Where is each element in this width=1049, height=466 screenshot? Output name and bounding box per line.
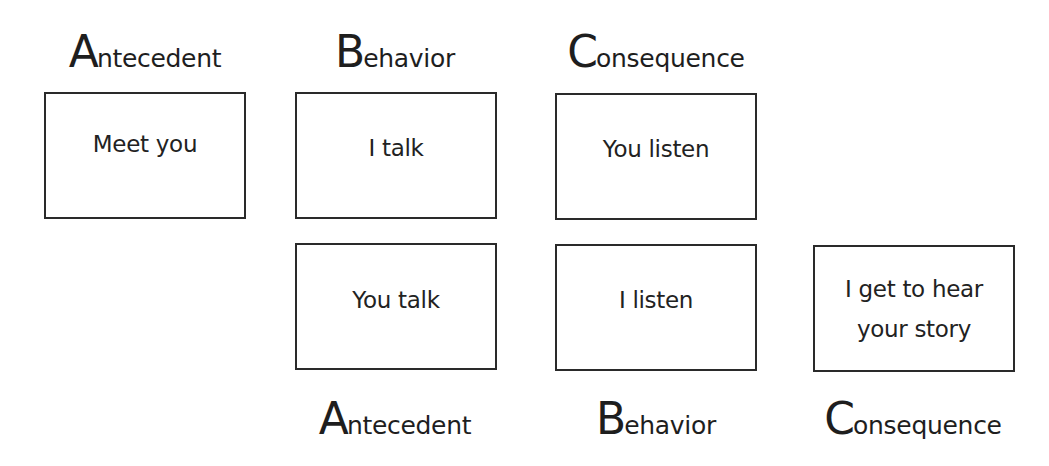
box-consequence-hear-story: I get to hear your story [813,245,1015,372]
top-label-behavior: Behavior [285,30,505,74]
box-text: You listen [557,129,755,169]
box-text: You talk [297,280,495,320]
box-text-line-1: I get to hear [815,269,1013,309]
label-rest: ehavior [624,411,716,440]
box-antecedent-you-talk: You talk [295,243,497,370]
label-rest: onsequence [596,44,745,73]
box-antecedent-meet-you: Meet you [44,92,246,219]
bottom-label-behavior: Behavior [546,397,766,441]
box-behavior-i-listen: I listen [555,244,757,371]
bottom-label-consequence: Consequence [803,397,1023,441]
box-behavior-i-talk: I talk [295,92,497,219]
box-text: I talk [297,128,495,168]
label-rest: ehavior [363,44,455,73]
label-initial: B [596,393,624,444]
box-text-line-2: your story [815,309,1013,349]
box-text: I get to hear your story [815,269,1013,349]
label-rest: ntecedent [97,44,221,73]
label-rest: onsequence [853,411,1002,440]
label-rest: ntecedent [347,411,471,440]
box-text: Meet you [46,124,244,164]
label-initial: A [69,26,97,77]
label-initial: B [335,26,363,77]
box-consequence-you-listen: You listen [555,93,757,220]
label-initial: A [319,393,347,444]
top-label-antecedent: Antecedent [35,30,255,74]
label-initial: C [824,393,853,444]
label-initial: C [567,26,596,77]
bottom-label-antecedent: Antecedent [285,397,505,441]
box-text: I listen [557,280,755,320]
top-label-consequence: Consequence [546,30,766,74]
